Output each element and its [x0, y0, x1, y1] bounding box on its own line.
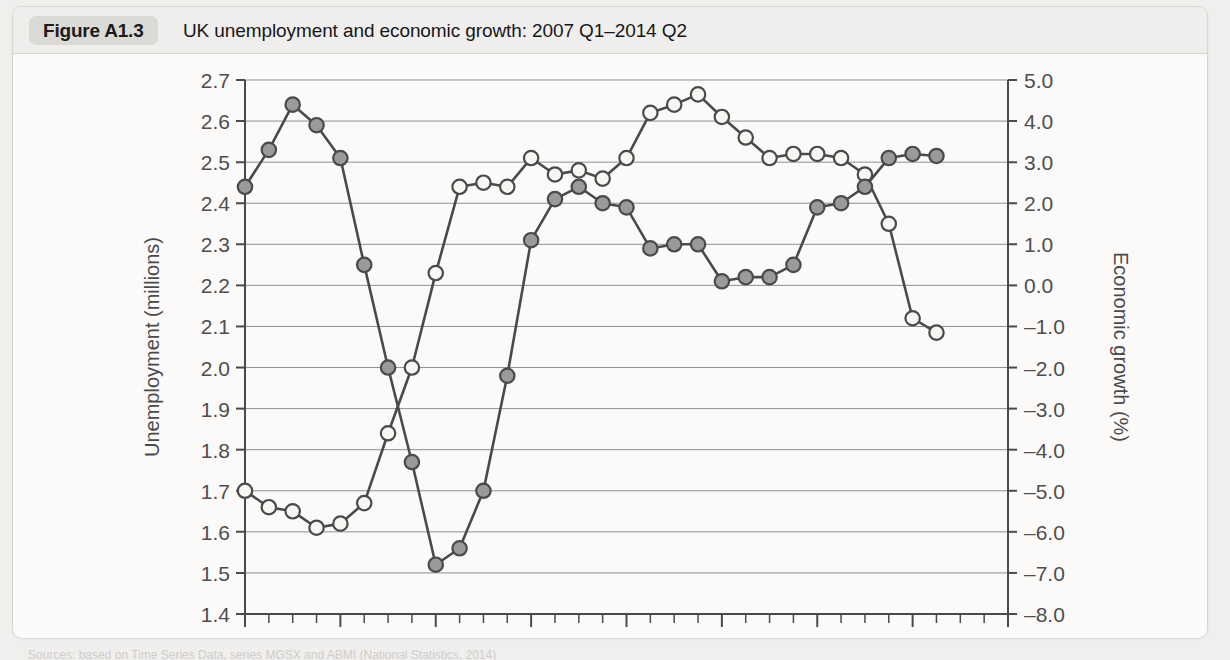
svg-text:5.0: 5.0 — [1024, 69, 1053, 92]
svg-text:2014: 2014 — [887, 635, 938, 638]
svg-text:2.3: 2.3 — [201, 233, 230, 256]
svg-text:–7.0: –7.0 — [1024, 562, 1065, 585]
svg-text:4.0: 4.0 — [1024, 110, 1053, 133]
y-axis-left-label: Unemployment (millions) — [141, 237, 163, 457]
svg-text:2011: 2011 — [602, 635, 651, 638]
y-axis-right-ticks: –8.0–7.0–6.0–5.0–4.0–3.0–2.0–1.00.01.02.… — [1008, 69, 1065, 626]
line-chart: 1.41.51.61.71.81.92.02.12.22.32.42.52.62… — [13, 54, 1207, 638]
svg-text:2.4: 2.4 — [201, 192, 231, 215]
svg-text:1.0: 1.0 — [1024, 233, 1053, 256]
svg-text:2.1: 2.1 — [201, 315, 230, 338]
svg-text:2.0: 2.0 — [1024, 192, 1053, 215]
svg-text:1.8: 1.8 — [201, 439, 230, 462]
svg-text:2010: 2010 — [506, 635, 557, 638]
svg-text:2012: 2012 — [696, 635, 747, 638]
figure-number-badge: Figure A1.3 — [29, 16, 158, 45]
svg-text:0.0: 0.0 — [1024, 274, 1053, 297]
svg-text:3.0: 3.0 — [1024, 151, 1053, 174]
svg-text:–6.0: –6.0 — [1024, 521, 1065, 544]
svg-text:2007: 2007 — [219, 635, 270, 638]
svg-text:–2.0: –2.0 — [1024, 357, 1065, 380]
data-series-layer — [238, 87, 944, 572]
svg-text:2.7: 2.7 — [201, 69, 230, 92]
svg-text:1.7: 1.7 — [201, 480, 230, 503]
figure-card: Figure A1.3 UK unemployment and economic… — [12, 6, 1208, 638]
svg-text:2008: 2008 — [315, 635, 366, 638]
figure-header: Figure A1.3 UK unemployment and economic… — [13, 7, 1207, 54]
x-axis-ticks: 20072008200920102011201220132014 — [219, 614, 1008, 638]
svg-text:1.6: 1.6 — [201, 521, 230, 544]
svg-text:1.4: 1.4 — [201, 603, 231, 626]
svg-text:2.0: 2.0 — [201, 357, 230, 380]
svg-text:–3.0: –3.0 — [1024, 398, 1065, 421]
svg-text:1.5: 1.5 — [201, 562, 230, 585]
svg-text:–1.0: –1.0 — [1024, 315, 1065, 338]
svg-text:1.9: 1.9 — [201, 398, 230, 421]
svg-text:2009: 2009 — [410, 635, 461, 638]
chart-plot-region: 1.41.51.61.71.81.92.02.12.22.32.42.52.62… — [13, 54, 1207, 638]
svg-text:2.6: 2.6 — [201, 110, 230, 133]
svg-text:2.5: 2.5 — [201, 151, 230, 174]
svg-text:–8.0: –8.0 — [1024, 603, 1065, 626]
figure-title: UK unemployment and economic growth: 200… — [183, 17, 687, 45]
y-axis-left-ticks: 1.41.51.61.71.81.92.02.12.22.32.42.52.62… — [201, 69, 245, 626]
svg-text:–4.0: –4.0 — [1024, 439, 1065, 462]
svg-text:2.2: 2.2 — [201, 274, 230, 297]
y-axis-right-label: Economic growth (%) — [1110, 252, 1132, 442]
svg-text:–5.0: –5.0 — [1024, 480, 1065, 503]
figure-source-note: Sources: based on Time Series Data, seri… — [28, 648, 496, 660]
svg-text:2013: 2013 — [792, 635, 843, 638]
